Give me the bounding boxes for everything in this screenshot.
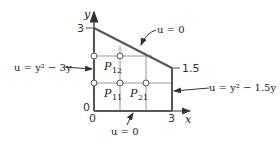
- origin-x-label: 0: [89, 112, 96, 125]
- grid-point-p11: P 11: [103, 87, 122, 102]
- node-circle: [91, 80, 97, 86]
- grid-point-p12: P 12: [103, 60, 122, 75]
- svg-text:P: P: [103, 87, 112, 100]
- svg-text:u = 0: u = 0: [111, 126, 139, 137]
- svg-text:21: 21: [138, 93, 148, 102]
- svg-text:u = y² − 1.5y: u = y² − 1.5y: [209, 82, 276, 93]
- grid-lines: [94, 46, 172, 111]
- finite-difference-diagram: y x 3 1.5 0 0 3 P 12 P 11 P 21 u = 0 u =…: [0, 0, 280, 145]
- bc-left: u = y² − 3y: [14, 62, 92, 73]
- svg-text:u = 0: u = 0: [157, 24, 185, 35]
- svg-text:P: P: [129, 87, 138, 100]
- tick-label-1-5: 1.5: [182, 62, 200, 75]
- x-tick-label-3: 3: [168, 112, 175, 125]
- node-circle: [91, 53, 97, 59]
- grid-point-p21: P 21: [129, 87, 148, 102]
- node-circle: [143, 80, 149, 86]
- node-circle: [117, 53, 123, 59]
- node-circle: [117, 80, 123, 86]
- y-tick-label-3: 3: [77, 22, 84, 35]
- bc-bottom: u = 0: [111, 113, 139, 137]
- svg-text:P: P: [103, 60, 112, 73]
- svg-text:12: 12: [112, 66, 122, 75]
- svg-text:11: 11: [112, 93, 122, 102]
- y-axis-label: y: [83, 8, 91, 21]
- bc-top: u = 0: [141, 24, 185, 45]
- svg-text:u = y² − 3y: u = y² − 3y: [14, 62, 72, 73]
- bc-right: u = y² − 1.5y: [174, 82, 276, 93]
- x-axis-label: x: [185, 113, 192, 126]
